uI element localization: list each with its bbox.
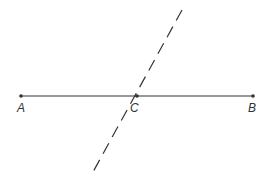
point-c: [135, 94, 139, 98]
dashed-line: [93, 10, 182, 172]
label-a: A: [16, 101, 25, 115]
point-a: [19, 94, 23, 98]
label-b: B: [248, 101, 256, 115]
label-c: C: [130, 101, 139, 115]
geometry-diagram: A C B: [0, 0, 268, 179]
point-b: [251, 94, 255, 98]
